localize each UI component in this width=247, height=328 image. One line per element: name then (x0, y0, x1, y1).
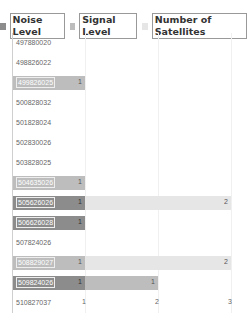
x-axis-tick: 2 (155, 298, 159, 305)
gridline (158, 33, 159, 313)
bar-value-label: 1 (78, 78, 82, 85)
legend-swatch-icon (142, 23, 148, 30)
category-label: 506626028 (16, 217, 55, 228)
bar-value-label: 1 (78, 198, 82, 205)
chart-plot-area: 497880020 498826022 1 499826025 50082803… (12, 33, 234, 311)
category-label: 497880020 (16, 38, 51, 47)
category-label: 505626026 (16, 197, 55, 208)
bar-row: 510827037 (13, 296, 234, 310)
bar-row: 1 504635026 (13, 176, 234, 190)
gridline (85, 33, 86, 313)
gridline (231, 33, 232, 313)
category-label: 503828025 (16, 158, 51, 167)
legend-swatch-icon (0, 23, 6, 30)
bar-row: 1 499826025 (13, 76, 234, 90)
bar-value-label: 1 (78, 178, 82, 185)
category-label: 509824026 (16, 277, 55, 288)
category-label: 510827037 (16, 298, 51, 307)
bar-row: 498826022 (13, 56, 234, 70)
bar-row: 1 2 505626026 (13, 196, 234, 210)
bar-value-label: 2 (224, 258, 228, 265)
bar-signal-level[interactable]: 1 (85, 276, 158, 290)
bar-number-of-satellites[interactable]: 2 (85, 256, 231, 270)
x-axis-tick: 3 (228, 298, 232, 305)
category-label: 504635026 (16, 177, 55, 188)
y-axis-line (12, 33, 13, 313)
bar-row: 502830026 (13, 136, 234, 150)
bar-row: 1 2 508829027 (13, 256, 234, 270)
x-axis-tick: 1 (82, 298, 86, 305)
bar-row: 500828032 (13, 96, 234, 110)
category-label: 499826025 (16, 77, 55, 88)
bar-value-label: 1 (78, 278, 82, 285)
category-label: 508829027 (16, 257, 55, 268)
category-label: 500828032 (16, 98, 51, 107)
legend-swatch-icon (70, 23, 76, 30)
bar-value-label: 2 (224, 198, 228, 205)
bar-value-label: 1 (78, 218, 82, 225)
bar-number-of-satellites[interactable]: 2 (85, 196, 231, 210)
category-label: 502830026 (16, 138, 51, 147)
bar-value-label: 1 (151, 278, 155, 285)
bar-value-label: 1 (78, 258, 82, 265)
bar-row: 1 506626028 (13, 216, 234, 230)
bar-row: 497880020 (13, 36, 234, 50)
bar-row: 507824026 (13, 236, 234, 250)
category-label: 501828024 (16, 118, 51, 127)
category-label: 498826022 (16, 58, 51, 67)
bar-row: 503828025 (13, 156, 234, 170)
bar-row: 1 1 509824026 (13, 276, 234, 290)
bar-row: 501828024 (13, 116, 234, 130)
category-label: 507824026 (16, 238, 51, 247)
